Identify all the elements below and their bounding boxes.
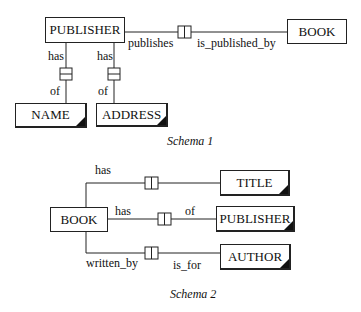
schema-2-caption: Schema 2	[170, 287, 216, 302]
entity-label: ADDRESS	[102, 107, 161, 123]
role-is-published-by: is_published_by	[197, 36, 276, 51]
entity-book: BOOK	[287, 19, 347, 44]
role-publisher-of: of	[185, 204, 195, 219]
entity-book-2: BOOK	[50, 207, 108, 232]
role-written-by: written_by	[86, 256, 138, 271]
role-publisher-has: has	[115, 204, 131, 219]
entity-label: PUBLISHER	[50, 22, 121, 38]
entity-author: AUTHOR	[220, 244, 291, 270]
value-type-title: TITLE	[220, 170, 290, 196]
schema-1-caption: Schema 1	[167, 134, 213, 149]
entity-publisher-2: PUBLISHER	[216, 206, 295, 232]
entity-label: BOOK	[299, 24, 336, 40]
role-name-of: of	[50, 84, 60, 99]
entity-label: BOOK	[61, 212, 98, 228]
role-name-has: has	[48, 49, 64, 64]
entity-publisher: PUBLISHER	[45, 17, 125, 43]
role-publishes: publishes	[128, 36, 173, 51]
role-title-has: has	[95, 163, 111, 178]
value-type-address: ADDRESS	[96, 103, 168, 127]
entity-label: TITLE	[236, 175, 272, 191]
role-address-of: of	[98, 84, 108, 99]
entity-label: PUBLISHER	[220, 211, 291, 227]
role-address-has: has	[97, 49, 113, 64]
entity-label: NAME	[31, 107, 69, 123]
role-is-for: is_for	[173, 258, 201, 273]
entity-label: AUTHOR	[228, 249, 282, 265]
value-type-name: NAME	[15, 103, 87, 128]
